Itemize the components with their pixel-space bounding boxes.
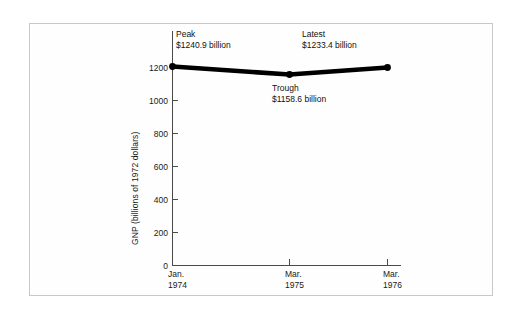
data-point-trough xyxy=(286,71,293,78)
x-tick-label-jan-1974: Jan. 1974 xyxy=(168,269,187,290)
y-tick-label-200: 200 xyxy=(126,228,168,238)
y-axis-ticks xyxy=(173,68,179,266)
annotation-peak: Peak $1240.9 billion xyxy=(176,29,231,51)
annotation-trough-label: Trough xyxy=(272,83,326,94)
annotation-latest-value: $1233.4 billion xyxy=(302,40,357,51)
y-tick-label-0: 0 xyxy=(126,261,168,271)
x-tick-month: Jan. xyxy=(168,269,187,280)
annotation-peak-value: $1240.9 billion xyxy=(176,40,231,51)
y-tick-label-600: 600 xyxy=(126,162,168,172)
annotation-trough: Trough $1158.6 billion xyxy=(272,83,326,105)
chart-page: GNP (billions of 1972 dollars) 1200 1000… xyxy=(0,0,519,317)
x-tick-year: 1976 xyxy=(383,280,402,291)
x-tick-year: 1975 xyxy=(285,280,304,291)
y-tick-label-1000: 1000 xyxy=(126,96,168,106)
x-tick-label-mar-1975: Mar. 1975 xyxy=(285,269,304,290)
data-point-latest xyxy=(384,64,391,71)
x-tick-month: Mar. xyxy=(285,269,304,280)
x-tick-year: 1974 xyxy=(168,280,187,291)
x-tick-month: Mar. xyxy=(383,269,402,280)
y-tick-label-800: 800 xyxy=(126,129,168,139)
data-point-peak xyxy=(169,63,176,70)
x-tick-label-mar-1976: Mar. 1976 xyxy=(383,269,402,290)
annotation-latest-label: Latest xyxy=(302,29,357,40)
gnp-data-line xyxy=(173,67,388,75)
annotation-latest: Latest $1233.4 billion xyxy=(302,29,357,51)
y-tick-label-1200: 1200 xyxy=(126,63,168,73)
y-tick-label-400: 400 xyxy=(126,195,168,205)
chart-plot xyxy=(0,0,519,317)
annotation-trough-value: $1158.6 billion xyxy=(272,94,326,105)
annotation-peak-label: Peak xyxy=(176,29,231,40)
x-axis-ticks xyxy=(173,259,388,266)
